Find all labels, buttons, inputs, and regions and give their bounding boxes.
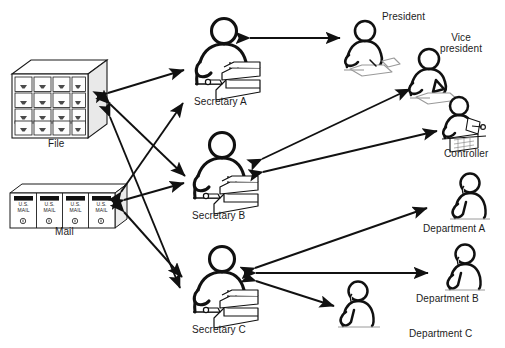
secretary-typing-icon — [193, 133, 258, 215]
edge-secretary-c-department-a — [255, 208, 427, 268]
label-secretary-c: Secretary C — [192, 324, 246, 335]
label-president: President — [382, 11, 425, 22]
vice-president-writing-icon — [409, 49, 458, 104]
label-vice-president: Vicepresident — [440, 32, 482, 54]
label-department-a: Department A — [423, 223, 485, 234]
edge-secretary-c-department-c — [256, 281, 334, 306]
edge-secretary-a-mail — [121, 103, 183, 192]
label-secretary-a: Secretary A — [194, 96, 247, 107]
department-phone-icon — [338, 282, 380, 328]
mailbox-label-2: U.S.MAIL — [40, 202, 59, 213]
label-secretary-b: Secretary B — [192, 210, 245, 221]
president-writing-icon — [344, 21, 400, 76]
label-file: File — [48, 138, 65, 149]
file-cabinet-icon — [12, 60, 107, 138]
diagram-canvas: File Mail Secretary A Secretary B Secret… — [0, 0, 505, 348]
label-department-c: Department C — [409, 328, 472, 339]
secretary-typing-icon — [193, 247, 258, 329]
secretary-typing-icon — [195, 19, 260, 101]
edge-secretary-b-controller — [263, 131, 437, 172]
edge-secretary-a-file — [108, 70, 184, 93]
department-phone-icon — [450, 174, 490, 220]
controller-ledger-icon — [442, 97, 486, 152]
mailbox-label-3: U.S.MAIL — [66, 202, 85, 213]
edge-secretary-b-vice-president — [262, 89, 410, 159]
label-mail: Mail — [55, 226, 74, 237]
mailbox-label-1: U.S.MAIL — [14, 202, 33, 213]
label-department-b: Department B — [416, 293, 479, 304]
mailbox-label-4: U.S.MAIL — [92, 202, 111, 213]
department-phone-icon — [445, 245, 485, 291]
label-controller: Controller — [444, 148, 488, 159]
edge-secretary-b-mail — [124, 183, 184, 200]
